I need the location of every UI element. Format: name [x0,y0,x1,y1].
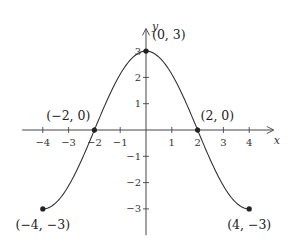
point-label: (2, 0) [201,108,235,123]
chart-container: −4−3−2−11234321−1−2−3 (−4, −3)(−2, 0)(0,… [0,0,295,246]
x-tick-label: 4 [246,137,252,148]
x-tick-label: −1 [113,137,128,148]
function-graph: −4−3−2−11234321−1−2−3 (−4, −3)(−2, 0)(0,… [0,0,295,246]
x-tick-label: 2 [194,137,200,148]
y-axis-label: y [151,20,159,33]
x-axis-label: x [274,134,281,147]
point-label: (4, −3) [227,217,271,232]
y-tick-label: −3 [126,203,141,214]
y-tick-label: −1 [126,151,141,162]
point-label: (−4, −3) [16,217,71,232]
x-tick-label: 3 [220,137,226,148]
x-tick-label: 1 [169,137,175,148]
data-point [40,206,45,211]
data-point [92,127,97,132]
x-tick-label: −3 [61,137,76,148]
x-tick-label: −4 [35,137,50,148]
y-tick-label: 1 [135,98,141,109]
data-point [195,127,200,132]
y-tick-label: −2 [126,177,141,188]
point-label: (−2, 0) [46,108,90,123]
y-tick-label: 2 [135,72,141,83]
axes [22,28,274,235]
data-point [143,49,148,54]
data-point [247,206,252,211]
